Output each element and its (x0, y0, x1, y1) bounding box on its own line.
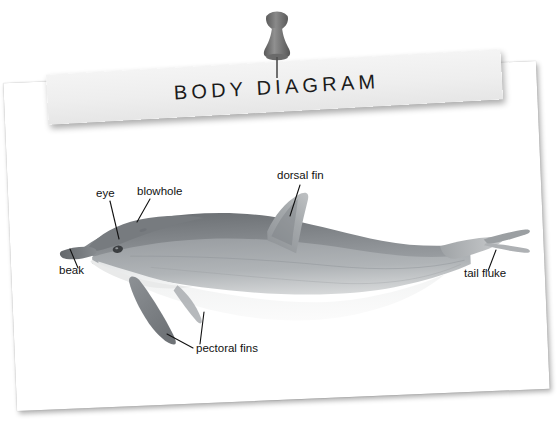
label-eye: eye (96, 187, 115, 199)
dolphin-illustration (58, 183, 534, 349)
label-dorsal-fin: dorsal fin (277, 169, 324, 181)
leader-line-pectoral-2 (200, 312, 204, 344)
dolphin-beak (60, 246, 97, 260)
label-beak: beak (59, 264, 84, 276)
label-tail-fluke: tail fluke (464, 267, 506, 279)
body-diagram-page: eye blowhole beak dorsal fin tail fluke … (0, 0, 557, 427)
dolphin-tail-fluke (483, 229, 530, 244)
label-pectoral-fins: pectoral fins (196, 342, 258, 354)
page-title: BODY DIAGRAM (169, 70, 380, 105)
label-blowhole: blowhole (137, 185, 182, 197)
